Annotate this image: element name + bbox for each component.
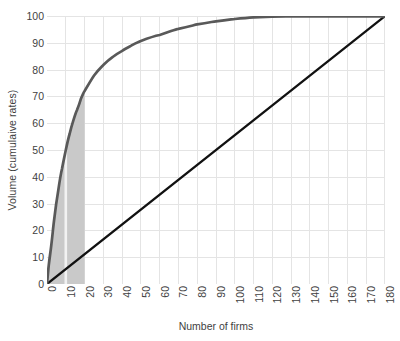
x-axis-tick-labels: 0 10 20 30 40 50 60 70 80 90 100 110 120… — [47, 286, 385, 316]
x-tick-label: 160 — [347, 286, 358, 304]
x-tick-label: 80 — [197, 286, 208, 298]
x-tick-label: 70 — [178, 286, 189, 298]
x-tick-label: 100 — [235, 286, 246, 304]
y-tick-label: 40 — [22, 171, 44, 182]
y-tick-label: 60 — [22, 118, 44, 129]
x-axis-title: Number of firms — [47, 320, 385, 332]
x-tick-label: 170 — [366, 286, 377, 304]
x-tick-label: 90 — [216, 286, 227, 298]
x-tick-label: 120 — [272, 286, 283, 304]
y-axis-title-label: Volume (cumulaive rates) — [6, 90, 18, 211]
x-tick-label: 180 — [385, 286, 396, 304]
chart-container: Volume (cumulaive rates) 0 10 20 30 40 5… — [0, 0, 400, 341]
y-tick-label: 30 — [22, 198, 44, 209]
y-tick-label: 80 — [22, 64, 44, 75]
x-tick-label: 110 — [254, 286, 265, 303]
y-tick-label: 10 — [22, 252, 44, 263]
y-tick-label: 20 — [22, 225, 44, 236]
y-tick-label: 100 — [22, 11, 44, 22]
chart-svg — [47, 16, 385, 284]
x-tick-label: 50 — [141, 286, 152, 298]
x-tick-label: 150 — [329, 286, 340, 304]
y-tick-label: 90 — [22, 37, 44, 48]
y-tick-label: 50 — [22, 145, 44, 156]
y-axis-title: Volume (cumulaive rates) — [0, 0, 24, 300]
x-tick-label: 10 — [66, 286, 77, 298]
x-tick-label: 130 — [291, 286, 302, 304]
y-axis-tick-labels: 0 10 20 30 40 50 60 70 80 90 100 — [22, 16, 44, 284]
x-tick-label: 60 — [160, 286, 171, 298]
x-tick-label: 0 — [47, 286, 58, 292]
x-tick-label: 30 — [103, 286, 114, 298]
x-tick-label: 20 — [85, 286, 96, 298]
x-tick-label: 40 — [122, 286, 133, 298]
plot-area — [47, 16, 385, 284]
x-axis-title-label: Number of firms — [179, 320, 254, 332]
x-tick-label: 140 — [310, 286, 321, 304]
y-tick-label: 0 — [22, 279, 44, 290]
y-tick-label: 70 — [22, 91, 44, 102]
